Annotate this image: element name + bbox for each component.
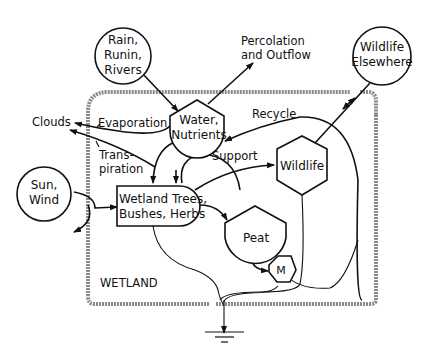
microbes-recycle [287, 240, 358, 288]
peat-to-microbes-flow [253, 264, 268, 271]
sun-wind-source: Sun, Wind [17, 167, 71, 221]
svg-text:Wetland Trees,: Wetland Trees, [119, 192, 207, 206]
svg-text:Wildlife: Wildlife [280, 159, 324, 173]
heat-sink-icon [205, 332, 244, 342]
svg-text:Nutrients: Nutrients [171, 128, 227, 142]
svg-text:Sun,: Sun, [31, 178, 58, 192]
svg-text:Wildlife: Wildlife [360, 40, 404, 54]
svg-text:Peat: Peat [243, 231, 270, 245]
microbes-consumer: M [269, 256, 296, 282]
outflow-label: and Outflow [241, 48, 311, 62]
svg-text:Rain,: Rain, [108, 33, 138, 47]
support-label: Support [212, 149, 258, 163]
svg-text:Rivers: Rivers [104, 63, 141, 77]
peat-storage: Peat [225, 206, 286, 263]
sun-to-trees-flow [74, 192, 117, 208]
svg-text:Elsewhere: Elsewhere [351, 55, 412, 69]
transpiration-leader [96, 141, 99, 147]
trees-depreciation [153, 226, 224, 305]
percolation-flow [208, 63, 253, 104]
svg-text:Wind: Wind [29, 193, 59, 207]
wetland-label: WETLAND [100, 276, 158, 290]
svg-text:Bushes, Herbs: Bushes, Herbs [119, 207, 205, 221]
wetland-energy-diagram: WETLAND Rain, Runin, Rivers [0, 0, 432, 362]
clouds-label: Clouds [32, 115, 71, 129]
wetland-trees-producer: Wetland Trees, Bushes, Herbs [117, 186, 207, 226]
wildlife-elsewhere-source: Wildlife Elsewhere [351, 27, 412, 85]
trees-to-wildlife-flow [195, 165, 274, 190]
water-to-trees-flow [153, 142, 175, 183]
svg-text:M: M [276, 264, 286, 277]
evaporation-label: Evaporation [98, 116, 167, 130]
svg-text:Water,: Water, [179, 113, 218, 127]
svg-text:Runin,: Runin, [104, 48, 142, 62]
transpiration-label-1: Trans- [98, 148, 134, 162]
transpiration-label-2: piration [99, 162, 143, 176]
rain-runin-rivers-source: Rain, Runin, Rivers [95, 28, 151, 84]
recycle-label: Recycle [252, 107, 296, 121]
percolation-label: Percolation [241, 34, 305, 48]
wildlife-consumer: Wildlife [277, 136, 327, 195]
